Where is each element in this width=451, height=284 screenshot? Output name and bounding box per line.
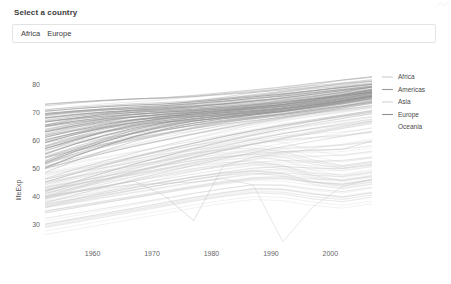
legend-label[interactable]: Africa: [398, 73, 415, 80]
x-tick-label: 1990: [263, 250, 279, 257]
y-tick-label: 60: [32, 137, 40, 144]
legend-label[interactable]: Americas: [398, 86, 426, 93]
chart-lines: [45, 76, 372, 242]
y-tick-label: 50: [32, 165, 40, 172]
selector-label: Select a country: [14, 8, 77, 17]
y-tick-label: 40: [32, 193, 40, 200]
chart-svg: 304050607080 19601970198019902000 lifeEx…: [0, 58, 451, 284]
selected-value-0[interactable]: Africa: [21, 29, 40, 39]
y-tick-label: 80: [32, 81, 40, 88]
y-tick-label: 70: [32, 109, 40, 116]
chart-legend: AfricaAmericasAsiaEuropeOceania: [382, 73, 426, 130]
selected-value-1[interactable]: Europe: [47, 29, 71, 39]
legend-label[interactable]: Oceania: [398, 123, 423, 130]
selected-values-list: AfricaEurope: [21, 29, 71, 39]
app-root: Select a country AfricaEurope 3040506070…: [0, 0, 451, 284]
y-axis-label: lifeExp: [15, 179, 23, 200]
country-select-input[interactable]: AfricaEurope: [12, 24, 436, 43]
legend-label[interactable]: Asia: [398, 98, 411, 105]
y-tick-label: 30: [32, 221, 40, 228]
x-tick-label: 1980: [204, 250, 220, 257]
x-tick-label: 1970: [144, 250, 160, 257]
x-tick-label: 1960: [85, 250, 101, 257]
y-axis-ticks: 304050607080: [32, 81, 40, 228]
legend-label[interactable]: Europe: [398, 111, 419, 119]
lifeexp-chart: 304050607080 19601970198019902000 lifeEx…: [0, 58, 451, 284]
x-tick-label: 2000: [323, 250, 339, 257]
x-axis-ticks: 19601970198019902000: [85, 250, 338, 257]
corner-mark-icon: [435, 1, 449, 10]
